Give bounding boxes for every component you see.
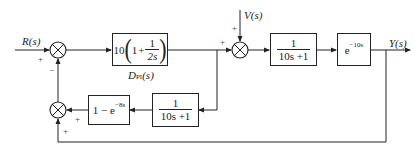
output-label-y: Y(s): [389, 38, 407, 49]
delay-block: e−10s: [337, 33, 371, 66]
controller-block: 10 ( 1 + 1 2s ): [112, 33, 168, 66]
smith-block: 1 − e−8s: [88, 95, 130, 125]
input-label-v: V(s): [244, 10, 262, 21]
sign-sum3-right: +: [75, 115, 80, 124]
fraction-numerator: 1: [289, 38, 299, 49]
sign-sum2-left: +: [220, 38, 225, 47]
left-paren: (: [124, 36, 131, 62]
smith-exponent: −8s: [115, 101, 125, 109]
input-label-r: R(s): [22, 36, 40, 47]
controller-fraction: 1 2s: [145, 38, 159, 62]
fraction-denominator: 10s +1: [277, 49, 311, 62]
controller-gain: 10: [113, 44, 124, 56]
plant-fraction: 1 10s +1: [277, 38, 311, 62]
sign-sum3-bottom: +: [63, 127, 68, 136]
summing-junction-2: [232, 42, 248, 58]
fraction-denominator: 10s +1: [159, 109, 193, 122]
model-block: 1 10s +1: [152, 93, 199, 127]
fraction-denominator: 2s: [145, 49, 159, 62]
sign-sum2-top: +: [232, 24, 237, 33]
sign-sum1-input: +: [38, 55, 43, 64]
fraction-numerator: 1: [148, 38, 158, 49]
plant-block: 1 10s +1: [270, 33, 317, 66]
fraction-numerator: 1: [171, 98, 181, 109]
summing-junction-1: [50, 42, 66, 58]
controller-plus: +: [137, 44, 145, 56]
summing-junction-3: [50, 102, 66, 118]
sign-sum1-feedback: −: [49, 66, 54, 75]
model-fraction: 1 10s +1: [159, 98, 193, 122]
controller-label: DPI(s): [128, 70, 154, 83]
smith-text: 1 − e: [93, 104, 115, 116]
right-paren: ): [159, 36, 166, 62]
delay-exponent: −10s: [350, 41, 364, 49]
